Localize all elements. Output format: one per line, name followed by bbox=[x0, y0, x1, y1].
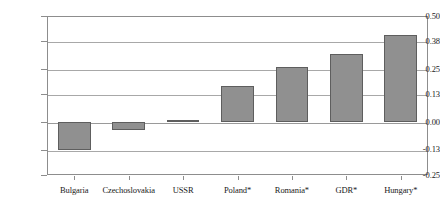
bar bbox=[384, 35, 417, 122]
x-tick-label: USSR bbox=[173, 186, 194, 195]
y-tick bbox=[41, 150, 47, 151]
bar bbox=[167, 120, 200, 122]
bar bbox=[330, 54, 363, 122]
bar bbox=[221, 86, 254, 122]
x-tick bbox=[74, 176, 75, 180]
y-tick bbox=[41, 16, 47, 17]
x-tick bbox=[401, 176, 402, 180]
x-tick bbox=[129, 176, 130, 180]
x-tick-label: Poland* bbox=[224, 186, 251, 195]
gridline bbox=[48, 151, 427, 152]
y-tick-label: -0.25 bbox=[401, 171, 440, 180]
y-tick bbox=[41, 122, 47, 123]
x-tick-label: Czechoslovakia bbox=[102, 186, 154, 195]
bar-chart: 0.500.380.250.130.00-0.13-0.25 BulgariaC… bbox=[0, 0, 440, 207]
bar bbox=[58, 122, 91, 150]
y-tick bbox=[41, 94, 47, 95]
x-tick-label: GDR* bbox=[335, 186, 357, 195]
x-tick bbox=[238, 176, 239, 180]
y-tick bbox=[41, 41, 47, 42]
gridline bbox=[48, 42, 427, 43]
x-tick-label: Hungary* bbox=[384, 186, 417, 195]
y-tick bbox=[41, 69, 47, 70]
x-tick-label: Bulgaria bbox=[60, 186, 88, 195]
y-tick-label: -0.13 bbox=[401, 145, 440, 154]
y-axis-line bbox=[47, 16, 48, 175]
zero-line bbox=[48, 123, 427, 124]
gridline bbox=[48, 70, 427, 71]
bar bbox=[112, 122, 145, 130]
bar bbox=[276, 67, 309, 122]
x-tick bbox=[346, 176, 347, 180]
y-tick-label: 0.50 bbox=[401, 12, 440, 21]
x-tick bbox=[183, 176, 184, 180]
x-tick-label: Romania* bbox=[275, 186, 309, 195]
y-tick bbox=[41, 175, 47, 176]
x-tick bbox=[292, 176, 293, 180]
